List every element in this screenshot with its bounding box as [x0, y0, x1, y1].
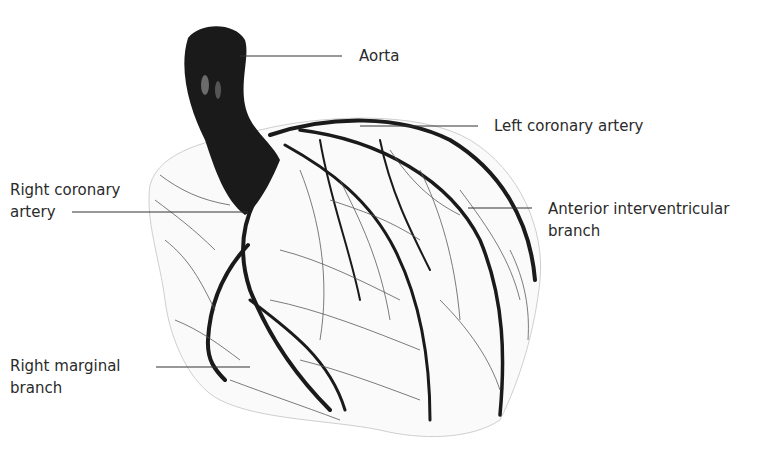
aorta-label: Aorta [359, 47, 399, 66]
anterior-interventricular-branch-label-line2: branch [548, 222, 600, 241]
right-marginal-branch-label-line2: branch [10, 379, 62, 398]
right-coronary-artery-label-line1: Right coronary [10, 181, 120, 200]
right-marginal-branch-label-line1: Right marginal [10, 357, 121, 376]
right-coronary-artery-label-line2: artery [10, 203, 56, 222]
left-coronary-artery-label: Left coronary artery [494, 117, 643, 136]
anterior-interventricular-branch-label-line1: Anterior interventricular [548, 200, 729, 219]
heart-illustration [0, 0, 765, 450]
